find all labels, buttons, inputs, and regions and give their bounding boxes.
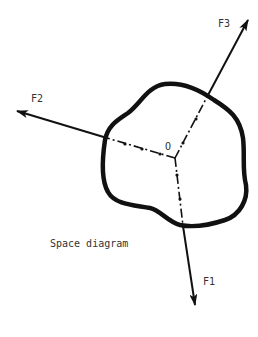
space-diagram: F3 F2 F1 O Space diagram <box>0 0 258 337</box>
force-arrow-f1 <box>183 226 195 305</box>
center-label-o: O <box>165 141 171 152</box>
label-f3: F3 <box>218 18 230 29</box>
body-outline <box>103 84 247 227</box>
force-arrow-f2 <box>17 111 107 138</box>
dash-dots <box>123 117 197 200</box>
label-f2: F2 <box>31 93 43 104</box>
force-arrow-f3 <box>207 20 248 97</box>
label-f1: F1 <box>203 276 215 287</box>
diagram-caption: Space diagram <box>50 238 128 249</box>
